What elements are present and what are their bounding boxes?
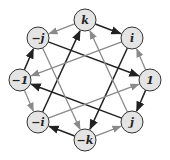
node-label: −j xyxy=(31,32,44,45)
node-j: j xyxy=(121,111,143,133)
edge--1-to--j xyxy=(24,49,33,70)
edge--1-to--i xyxy=(24,90,33,111)
edge-k-to-i xyxy=(95,24,121,34)
node--j: −j xyxy=(27,27,49,49)
edge-k-to--j xyxy=(49,24,75,34)
quaternion-cayley-graph: ki1j−k−i−1−j xyxy=(0,0,170,160)
node-label: k xyxy=(81,14,89,27)
node-1: 1 xyxy=(139,69,161,91)
node-k: k xyxy=(74,9,96,31)
node--i: −i xyxy=(27,111,49,133)
node-label: −k xyxy=(77,134,94,147)
edge-1-to-j xyxy=(137,90,146,111)
node--1: −1 xyxy=(9,69,31,91)
edge-1-to-i xyxy=(137,49,146,70)
edge--k-to-j xyxy=(95,126,121,136)
nodes: ki1j−k−i−1−j xyxy=(9,9,161,151)
edge--k-to--i xyxy=(49,126,75,136)
node-label: i xyxy=(130,32,134,45)
node-label: −1 xyxy=(12,74,29,87)
graph-canvas: ki1j−k−i−1−j xyxy=(0,0,170,160)
node--k: −k xyxy=(74,129,96,151)
node-i: i xyxy=(121,27,143,49)
node-label: 1 xyxy=(146,74,154,87)
node-label: −i xyxy=(31,116,44,129)
